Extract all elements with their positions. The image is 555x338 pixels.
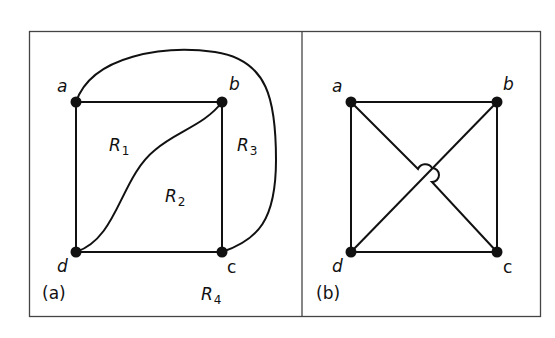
vertex-d <box>346 247 357 258</box>
vertex-label-d: d <box>332 258 343 275</box>
vertex-label-c: c <box>503 259 512 276</box>
graph-figure <box>0 0 555 338</box>
edge-b-d-curve <box>76 102 222 252</box>
vertex-label-b: b <box>229 76 240 93</box>
vertex-label-b: b <box>503 76 514 93</box>
panel-b-graph <box>351 102 497 252</box>
vertex-a <box>346 97 357 108</box>
region-label-r3: R3 <box>237 137 257 157</box>
vertex-b <box>492 97 503 108</box>
vertex-a <box>71 97 82 108</box>
vertex-b <box>217 97 228 108</box>
vertex-label-d: d <box>57 258 68 275</box>
region-label-r4: R4 <box>201 286 221 306</box>
vertex-label-c: c <box>227 259 236 276</box>
vertex-c <box>217 247 228 258</box>
panel-a-vertices <box>71 97 228 258</box>
outer-frame <box>30 32 541 317</box>
vertex-d <box>71 247 82 258</box>
panel-a-caption: (a) <box>42 285 66 302</box>
vertex-label-a: a <box>332 78 342 95</box>
region-label-r1: R1 <box>109 137 129 157</box>
panel-b-caption: (b) <box>316 285 340 302</box>
vertex-label-a: a <box>57 78 67 95</box>
region-label-r2: R2 <box>165 188 185 208</box>
vertex-c <box>492 247 503 258</box>
